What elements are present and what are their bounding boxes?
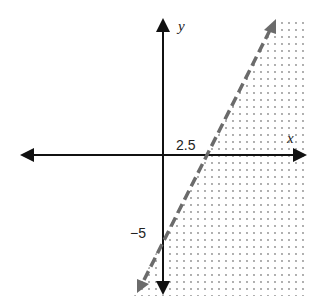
y-axis-label: y <box>176 18 185 34</box>
boundary-up-arrow-icon <box>264 19 276 34</box>
y-axis-up-arrow-icon <box>156 18 170 32</box>
shaded-region <box>0 0 323 301</box>
x-axis-left-arrow-icon <box>20 148 34 162</box>
x-axis-label: x <box>286 130 294 146</box>
y-intercept-label: −5 <box>130 225 146 241</box>
x-intercept-label: 2.5 <box>176 137 196 153</box>
inequality-graph: y x 2.5 −5 <box>0 0 323 301</box>
